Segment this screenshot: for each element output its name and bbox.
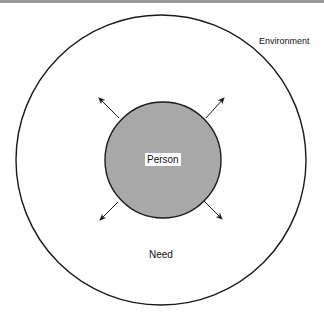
arrow-down-right — [204, 201, 222, 219]
person-label: Person — [145, 153, 181, 166]
environment-label: Environment — [259, 36, 310, 46]
arrow-up-left — [99, 98, 119, 118]
arrow-up-right — [206, 98, 224, 118]
need-label: Need — [149, 249, 173, 260]
arrow-down-left — [100, 202, 118, 220]
diagram-canvas: Environment Person Need — [0, 0, 324, 314]
